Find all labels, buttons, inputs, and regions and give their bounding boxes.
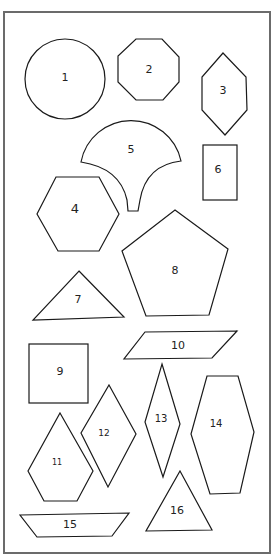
shape-15-label: 15 [63,518,77,531]
shape-11-label: 11 [52,458,62,467]
shape-4-label: 4 [71,201,79,216]
shape-6-label: 6 [215,163,222,176]
shape-12-label: 12 [98,428,109,438]
shape-14-label: 14 [210,418,223,429]
shape-7-label: 7 [75,293,82,306]
shape-3-label: 3 [220,84,227,97]
shape-2-label: 2 [146,63,153,76]
shape-16-label: 16 [170,504,184,517]
shape-10-label: 10 [171,339,185,352]
shape-5-label: 5 [128,143,135,156]
shape-9-label: 9 [57,365,64,378]
shapes-diagram: 1 2 3 5 6 4 8 7 10 9 [0,0,274,556]
shape-13-label: 13 [155,413,168,424]
shape-1-label: 1 [62,71,69,84]
page-frame [4,12,270,553]
shape-8-label: 8 [172,264,179,277]
